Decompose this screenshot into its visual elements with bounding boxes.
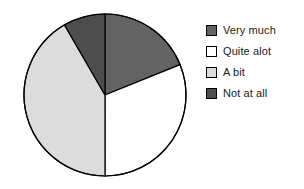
chart-legend: Very much Quite alot A bit Not at all <box>206 22 302 101</box>
pie-chart-figure: Very much Quite alot A bit Not at all <box>0 0 304 189</box>
legend-swatch-not-at-all <box>206 88 217 99</box>
legend-swatch-a-bit <box>206 67 217 78</box>
legend-item-not-at-all[interactable]: Not at all <box>206 85 302 101</box>
legend-swatch-quite-alot <box>206 46 217 57</box>
legend-item-very-much[interactable]: Very much <box>206 22 302 38</box>
pie-svg <box>0 0 200 189</box>
pie-slice-group <box>24 14 186 176</box>
pie-plot-area <box>0 0 200 189</box>
legend-label-a-bit: A bit <box>223 66 245 78</box>
legend-label-very-much: Very much <box>223 24 276 36</box>
legend-label-not-at-all: Not at all <box>223 87 267 99</box>
legend-item-a-bit[interactable]: A bit <box>206 64 302 80</box>
legend-item-quite-alot[interactable]: Quite alot <box>206 43 302 59</box>
legend-label-quite-alot: Quite alot <box>223 45 271 57</box>
legend-swatch-very-much <box>206 25 217 36</box>
